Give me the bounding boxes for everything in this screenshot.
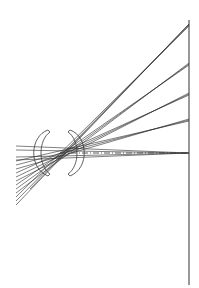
ray-bundle-1	[16, 24, 189, 205]
ray-bundle-3	[16, 93, 189, 181]
optical-ray-diagram	[0, 0, 199, 288]
ray-bundle-2	[16, 63, 189, 193]
